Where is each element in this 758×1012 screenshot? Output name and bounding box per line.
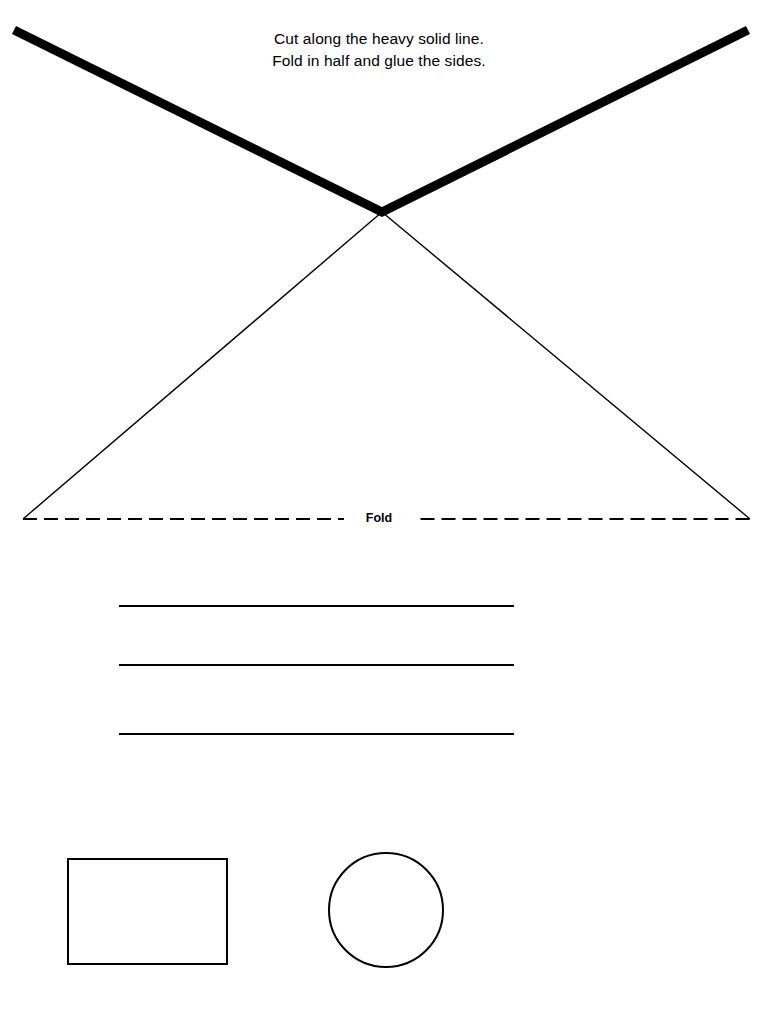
page-background	[0, 0, 758, 1012]
worksheet-page: Cut along the heavy solid line. Fold in …	[0, 0, 758, 1012]
worksheet-drawing-canvas	[0, 0, 758, 1012]
